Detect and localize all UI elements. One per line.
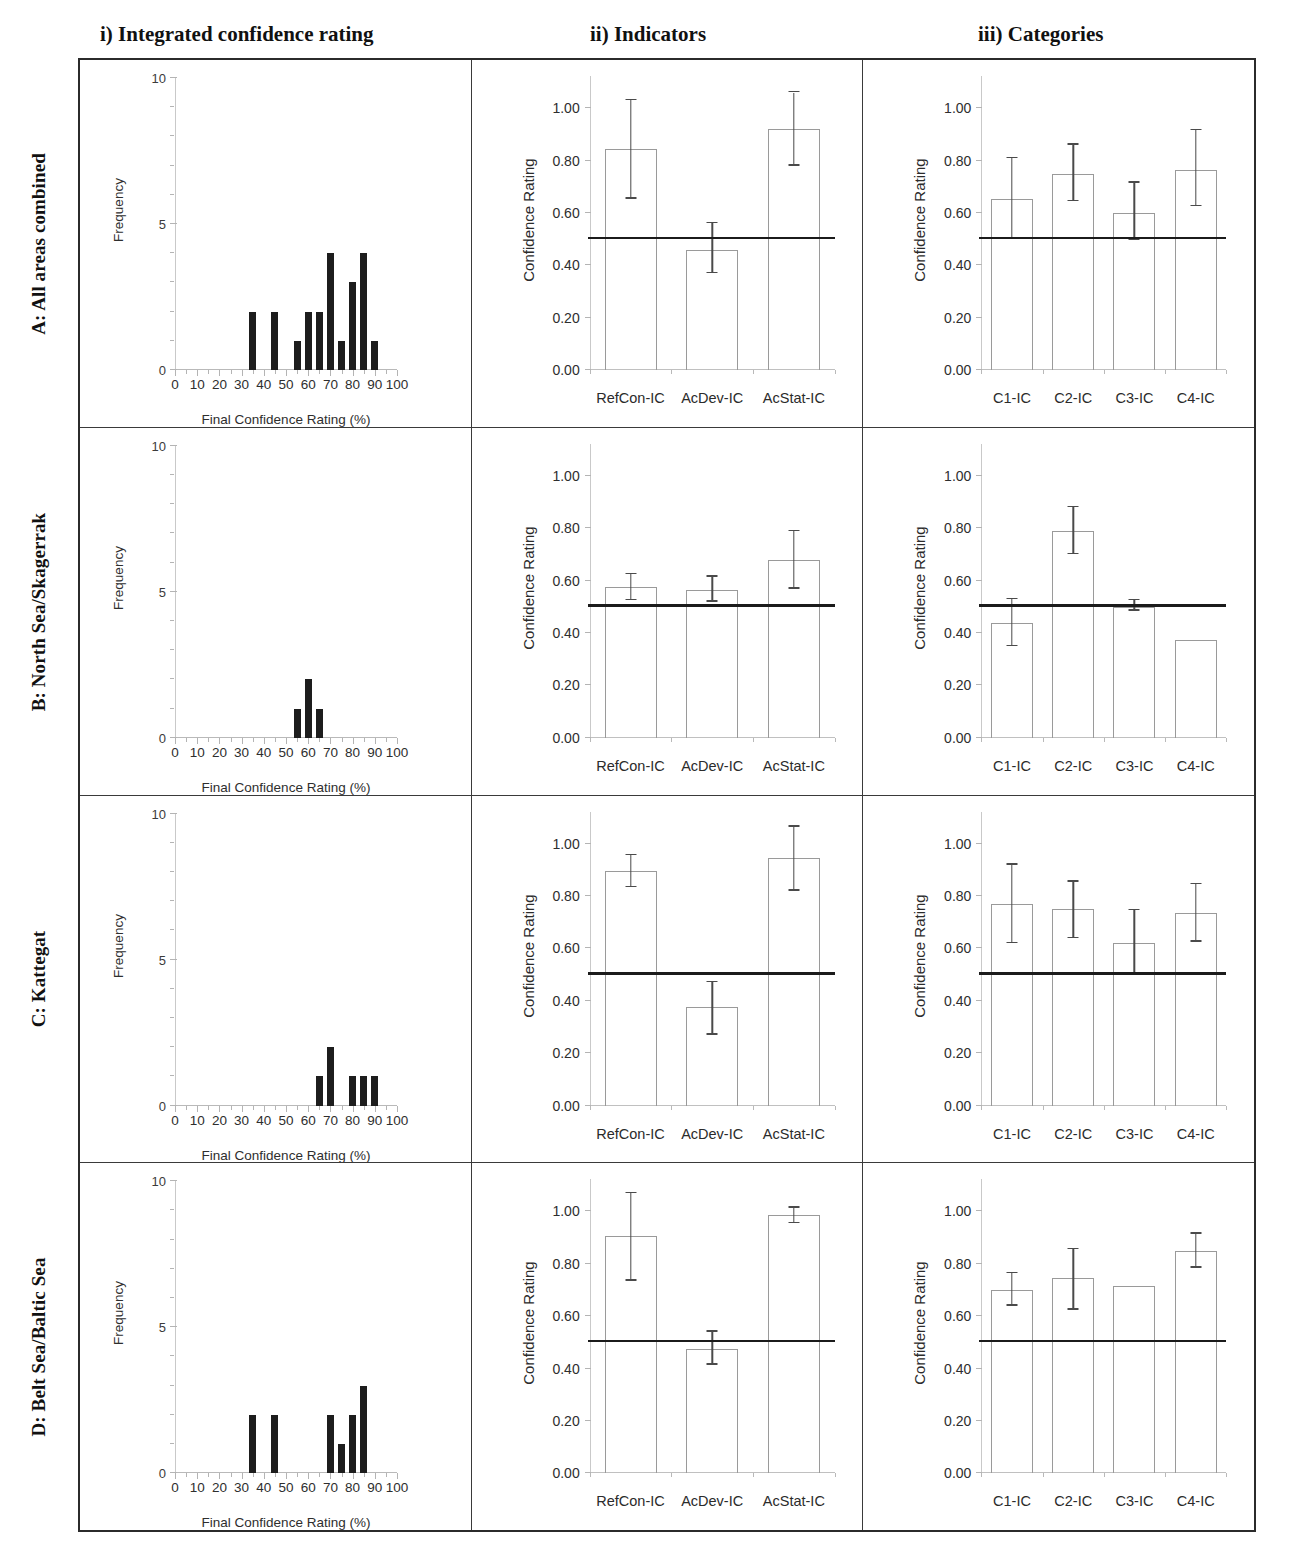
histogram-plot-area: 05100102030405060708090100 — [175, 78, 397, 370]
x-axis-tick-label: 80 — [345, 745, 360, 760]
x-axis-tick-label: 0 — [171, 1480, 179, 1495]
x-axis-tick — [1104, 1106, 1105, 1110]
y-axis-tick — [170, 311, 174, 312]
y-axis-tick-label: 0.20 — [552, 1045, 579, 1061]
x-axis-tick — [319, 1106, 320, 1110]
x-axis-tick — [186, 370, 187, 374]
x-axis-tick-label: 60 — [301, 1480, 316, 1495]
y-axis-tick-label: 0.40 — [552, 625, 579, 641]
y-axis-tick — [976, 527, 982, 528]
y-axis-tick — [976, 1420, 982, 1421]
x-axis-tick-label: 60 — [301, 1113, 316, 1128]
error-bar — [630, 574, 631, 600]
y-axis-tick — [976, 947, 982, 948]
x-axis-tick — [197, 370, 198, 376]
y-axis-tick — [170, 1046, 174, 1047]
x-axis-tick-label: 20 — [212, 1113, 227, 1128]
panel-b-iii: 0.000.200.400.600.801.00C1-ICC2-ICC3-ICC… — [863, 428, 1254, 795]
bar-column — [1113, 607, 1155, 738]
x-axis-tick — [297, 1106, 298, 1110]
bar-column — [686, 590, 738, 738]
y-axis-tick-label: 0.00 — [552, 362, 579, 378]
x-axis-tick — [590, 1106, 591, 1110]
x-axis-tick-label: C1-IC — [993, 390, 1031, 406]
bar-column — [1175, 640, 1217, 738]
x-axis-tick-label: 10 — [190, 377, 205, 392]
y-axis-tick — [976, 160, 982, 161]
x-axis-tick — [231, 1473, 232, 1477]
y-axis-tick-label: 1.00 — [552, 100, 579, 116]
y-axis-label: Confidence Rating — [519, 158, 536, 281]
y-axis-label: Confidence Rating — [911, 894, 928, 1017]
bar-plot-area: 0.000.200.400.600.801.00RefCon-ICAcDev-I… — [590, 1185, 835, 1473]
error-bar-cap — [1190, 205, 1201, 206]
histogram-bar — [327, 1415, 334, 1473]
x-axis-tick — [835, 738, 836, 742]
panel-a-iii: 0.000.200.400.600.801.00C1-ICC2-ICC3-ICC… — [863, 60, 1254, 427]
error-bar — [630, 100, 631, 198]
y-axis-tick — [170, 1385, 174, 1386]
y-axis-tick — [170, 165, 174, 166]
y-axis-tick-label: 0.00 — [944, 1465, 971, 1481]
reference-line — [979, 972, 1226, 974]
bar-chart: 0.000.200.400.600.801.00C1-ICC2-ICC3-ICC… — [863, 60, 1254, 427]
y-axis-tick-label: 0.00 — [944, 362, 971, 378]
x-axis-tick — [671, 738, 672, 742]
y-axis-tick-label: 10 — [152, 806, 166, 821]
error-bar-cap — [625, 197, 636, 198]
y-axis-tick — [585, 1000, 591, 1001]
y-axis-tick-label: 0 — [159, 363, 166, 378]
x-axis-tick — [219, 1473, 220, 1479]
x-axis-label: Final Confidence Rating (%) — [202, 1148, 371, 1163]
x-axis-tick — [275, 370, 276, 374]
x-axis-tick — [1226, 370, 1227, 374]
error-bar-cap — [707, 1033, 718, 1034]
x-axis-tick — [1043, 370, 1044, 374]
histogram-bar — [338, 1444, 345, 1473]
x-axis-tick-label: C2-IC — [1054, 390, 1092, 406]
x-axis-tick-label: C4-IC — [1177, 758, 1215, 774]
x-axis-tick — [253, 1473, 254, 1477]
y-axis-tick — [585, 317, 591, 318]
y-axis-tick-label: 0 — [159, 730, 166, 745]
histogram-plot-area: 05100102030405060708090100 — [175, 446, 397, 738]
x-axis-tick-label: 10 — [190, 745, 205, 760]
x-axis-tick — [375, 370, 376, 376]
y-axis-tick — [170, 900, 174, 901]
x-axis-tick — [386, 370, 387, 374]
y-axis-tick — [976, 684, 982, 685]
y-axis-tick-label: 0.80 — [944, 1256, 971, 1272]
x-axis-tick — [353, 738, 354, 744]
x-axis-tick — [242, 370, 243, 376]
y-axis-tick-label: 1.00 — [944, 468, 971, 484]
reference-line — [588, 237, 835, 239]
y-axis-tick-label: 0.00 — [944, 730, 971, 746]
x-axis-tick-label: RefCon-IC — [596, 758, 665, 774]
histogram-bar — [316, 1076, 323, 1105]
bar-column — [768, 858, 820, 1105]
y-axis-tick-label: 1.00 — [944, 836, 971, 852]
y-axis-tick-label: 0 — [159, 1098, 166, 1113]
x-axis-tick — [342, 738, 343, 742]
y-axis-tick — [976, 843, 982, 844]
y-axis-tick-label: 1.00 — [552, 1203, 579, 1219]
error-bar-cap — [1129, 909, 1140, 910]
y-axis-tick — [170, 474, 174, 475]
x-axis-tick — [286, 370, 287, 376]
y-axis-tick-label: 0.80 — [552, 153, 579, 169]
y-axis-tick-label: 0.80 — [944, 520, 971, 536]
bar-column — [1052, 909, 1094, 1105]
x-axis-tick-label: C4-IC — [1177, 390, 1215, 406]
bar-column — [1113, 1286, 1155, 1473]
x-axis-tick — [981, 1106, 982, 1110]
x-axis-tick — [375, 738, 376, 744]
x-axis-tick — [671, 1106, 672, 1110]
bar-chart: 0.000.200.400.600.801.00RefCon-ICAcDev-I… — [472, 60, 863, 427]
x-axis-tick — [264, 1473, 265, 1479]
row-label-b-text: B: North Sea/Skagerrak — [28, 512, 50, 711]
x-axis-tick-label: C2-IC — [1054, 758, 1092, 774]
bar-column — [1052, 174, 1094, 370]
bar-plot-area: 0.000.200.400.600.801.00C1-ICC2-ICC3-ICC… — [981, 818, 1226, 1106]
histogram-chart: 05100102030405060708090100FrequencyFinal… — [80, 60, 471, 427]
x-axis-tick — [208, 1106, 209, 1110]
